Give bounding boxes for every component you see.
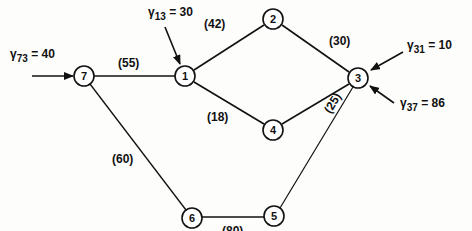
gamma-symbol: γ <box>148 5 155 19</box>
node-label-1: 1 <box>182 70 188 82</box>
gamma-value: = 86 <box>421 96 445 110</box>
node-label-2: 2 <box>270 13 276 25</box>
gamma-symbol: γ <box>10 47 17 61</box>
edge-2-3 <box>282 25 349 72</box>
input-label-gamma31: γ31 = 10 <box>407 39 452 51</box>
edge-5-3 <box>280 87 353 208</box>
gamma-subscript: 37 <box>407 102 418 113</box>
edge-label-1-2: (42) <box>204 18 225 30</box>
node-label-5: 5 <box>271 210 277 222</box>
gamma-value: = 30 <box>169 5 193 19</box>
node-label-3: 3 <box>355 72 361 84</box>
edge-1-4 <box>194 82 264 124</box>
gamma-value: = 10 <box>428 38 452 52</box>
arrow-gamma13 <box>165 27 180 64</box>
input-label-gamma13: γ13 = 30 <box>148 6 193 18</box>
edge-label-1-4: (18) <box>207 111 228 123</box>
edge-7-6 <box>90 84 186 210</box>
gamma-subscript: 31 <box>414 44 425 55</box>
edge-label-6-5: (80) <box>222 225 243 231</box>
node-label-4: 4 <box>270 124 277 136</box>
diagram-graphics: 7 1 2 3 4 6 5 <box>0 0 472 231</box>
edge-label-2-3: (30) <box>329 35 350 47</box>
edge-1-2 <box>194 25 264 70</box>
gamma-subscript: 73 <box>17 53 28 64</box>
arrow-gamma37 <box>370 86 394 103</box>
input-label-gamma73: γ73 = 40 <box>10 48 55 60</box>
gamma-subscript: 13 <box>155 11 166 22</box>
network-diagram: 7 1 2 3 4 6 5 (55) (42) (30) (18) (25) (… <box>0 0 472 231</box>
input-label-gamma37: γ37 = 86 <box>400 97 445 109</box>
gamma-symbol: γ <box>407 38 414 52</box>
node-label-7: 7 <box>81 70 87 82</box>
gamma-symbol: γ <box>400 96 407 110</box>
node-label-6: 6 <box>189 212 195 224</box>
gamma-value: = 40 <box>31 47 55 61</box>
arrow-gamma31 <box>371 52 403 70</box>
edge-label-7-6: (60) <box>112 153 133 165</box>
edge-label-7-1: (55) <box>118 57 139 69</box>
